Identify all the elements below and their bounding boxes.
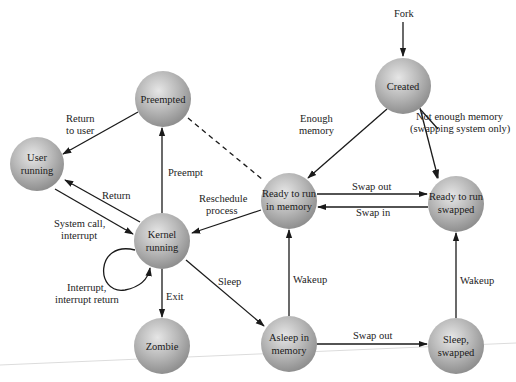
svg-text:Zombie: Zombie	[146, 341, 179, 352]
svg-text:swapped: swapped	[438, 204, 475, 215]
label-enough-1: Enough	[300, 113, 333, 124]
svg-text:running: running	[146, 242, 179, 253]
label-syscall-2: interrupt	[61, 230, 97, 241]
svg-text:Preempted: Preempted	[141, 94, 187, 105]
label-return-to-user-1: Return	[66, 113, 95, 124]
svg-text:Created: Created	[387, 81, 420, 92]
label-return: Return	[102, 190, 131, 201]
label-swap-out-bottom: Swap out	[353, 330, 392, 341]
label-wakeup-right: Wakeup	[460, 275, 494, 286]
label-sleep: Sleep	[218, 276, 241, 287]
svg-text:in memory: in memory	[266, 201, 313, 212]
label-exit: Exit	[166, 291, 184, 302]
label-swap-in: Swap in	[356, 207, 391, 218]
node-asleep-in-memory: Asleep in memory	[261, 316, 317, 372]
svg-text:User: User	[27, 152, 47, 163]
process-state-diagram: Preempted Created User running Kernel ru…	[0, 0, 516, 382]
node-sleep-swapped: Sleep, swapped	[428, 318, 484, 374]
edge-sleep	[186, 260, 264, 326]
node-kernel-running: Kernel running	[134, 213, 190, 269]
label-not-enough-2: (swapping system only)	[410, 123, 511, 135]
node-zombie: Zombie	[134, 318, 190, 374]
node-user-running: User running	[10, 137, 64, 191]
svg-text:Kernel: Kernel	[148, 229, 177, 240]
svg-text:memory: memory	[272, 345, 308, 356]
node-ready-swapped: Ready to run swapped	[428, 176, 484, 232]
label-interrupt-2: interrupt return	[55, 294, 120, 305]
label-not-enough-1: Not enough memory	[416, 111, 504, 122]
label-reschedule-2: process	[206, 205, 238, 216]
label-interrupt-1: Interrupt,	[67, 282, 106, 293]
label-fork: Fork	[394, 8, 415, 19]
node-preempted: Preempted	[135, 71, 191, 127]
svg-text:Asleep in: Asleep in	[269, 332, 310, 343]
svg-text:Sleep,: Sleep,	[443, 334, 469, 345]
label-enough-2: memory	[299, 125, 335, 136]
node-created: Created	[375, 58, 431, 114]
label-syscall-1: System call,	[54, 218, 105, 229]
label-preempt: Preempt	[168, 167, 203, 178]
svg-text:swapped: swapped	[438, 347, 475, 358]
label-return-to-user-2: to user	[66, 125, 95, 136]
label-swap-out-top: Swap out	[352, 181, 391, 192]
svg-text:Ready to run: Ready to run	[262, 188, 317, 199]
label-wakeup-left: Wakeup	[293, 274, 327, 285]
svg-text:Ready to run: Ready to run	[429, 191, 484, 202]
svg-text:running: running	[21, 165, 54, 176]
node-ready-in-memory: Ready to run in memory	[261, 173, 317, 229]
label-reschedule-1: Reschedule	[199, 193, 248, 204]
